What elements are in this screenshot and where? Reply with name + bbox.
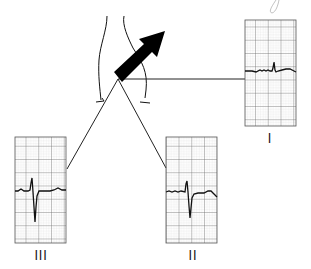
label-lead-I: I [263, 129, 277, 146]
lead-connector-lines [67, 79, 245, 169]
ecg-strip-lead-I [245, 20, 296, 126]
ecg-strip-lead-III [15, 137, 66, 243]
label-lead-III: III [29, 246, 53, 263]
label-lead-II: II [184, 246, 203, 263]
handwritten-mark [270, 0, 279, 13]
connector-lead-II [118, 79, 166, 168]
axis-arrow-icon [114, 31, 165, 82]
connector-lead-III [67, 79, 118, 169]
ecg-strip-lead-II [166, 137, 217, 243]
